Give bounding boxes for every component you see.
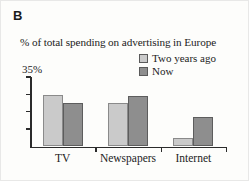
x-axis-end-tick (226, 147, 227, 152)
y-axis-line (30, 77, 32, 148)
y-axis-tick (26, 94, 31, 95)
x-axis-tick (161, 147, 162, 152)
figure-panel-b: B % of total spending on advertising in … (0, 0, 249, 181)
bar (128, 96, 148, 147)
x-axis-label-internet: Internet (161, 152, 226, 164)
plot-area: TVNewspapersInternet (0, 0, 249, 181)
bar (173, 138, 193, 147)
bar (43, 95, 63, 147)
x-axis-label-newspapers: Newspapers (95, 152, 160, 164)
x-axis-line (30, 147, 226, 149)
bar (108, 103, 128, 147)
x-axis-tick (95, 147, 96, 152)
y-axis-tick (26, 128, 31, 129)
bar (63, 103, 83, 147)
bar (193, 117, 213, 147)
y-axis-tick (26, 76, 31, 77)
x-axis-label-tv: TV (30, 152, 95, 164)
y-axis-tick (26, 111, 31, 112)
